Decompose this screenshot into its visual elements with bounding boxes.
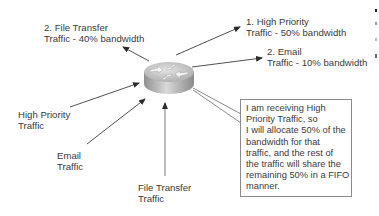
- callout-pointer: [193, 88, 241, 123]
- label-output-file-transfer: 2. File Transfer Traffic - 40% bandwidth: [44, 22, 144, 44]
- label-line: 2. File Transfer: [44, 22, 144, 33]
- arrow-out-file: [123, 47, 149, 61]
- callout-line: the traffic will share the: [246, 159, 351, 170]
- callout-line: remaining 50% in a FIFO: [246, 170, 351, 181]
- arrow-in-high: [70, 83, 139, 107]
- label-input-file-transfer: File Transfer Traffic: [138, 182, 191, 204]
- label-input-high-priority: High Priority Traffic: [18, 109, 70, 131]
- label-line: 1. High Priority: [246, 16, 346, 27]
- cropped-edge-fragments: [374, 0, 379, 110]
- label-line: Traffic - 50% bandwidth: [246, 27, 346, 38]
- router-icon: [144, 62, 194, 94]
- router-callout: I am receiving High Priority Traffic, so…: [240, 99, 352, 197]
- arrow-out-high: [176, 27, 240, 55]
- label-line: Traffic - 40% bandwidth: [44, 33, 144, 44]
- label-line: File Transfer: [138, 182, 191, 193]
- callout-line: I will allocate 50% of the: [246, 125, 351, 136]
- input-arrows: [70, 83, 165, 176]
- label-line: 2. Email: [267, 46, 367, 57]
- callout-line: traffic, and the rest of: [246, 148, 351, 159]
- label-line: High Priority: [18, 109, 70, 120]
- label-line: Traffic: [138, 193, 191, 204]
- label-line: Traffic: [57, 161, 83, 172]
- label-line: Traffic - 10% bandwidth: [267, 57, 367, 68]
- arrow-out-email: [192, 58, 262, 67]
- label-output-email: 2. Email Traffic - 10% bandwidth: [267, 46, 367, 68]
- callout-line: Priority Traffic, so: [246, 114, 351, 125]
- label-line: Email: [57, 150, 83, 161]
- callout-line: I am receiving High: [246, 103, 351, 114]
- callout-line: manner.: [246, 181, 351, 192]
- label-input-email: Email Traffic: [57, 150, 83, 172]
- label-output-high-priority: 1. High Priority Traffic - 50% bandwidth: [246, 16, 346, 38]
- label-line: Traffic: [18, 120, 70, 131]
- callout-line: bandwidth for that: [246, 137, 351, 148]
- arrow-in-email: [87, 99, 145, 144]
